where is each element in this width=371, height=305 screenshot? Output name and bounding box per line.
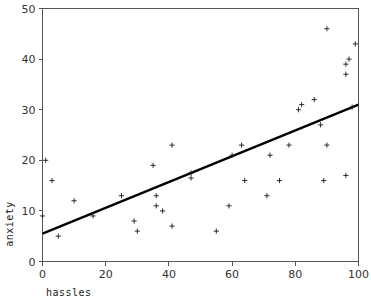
x-tick-label: 100 (348, 268, 369, 281)
regression-line-path (43, 105, 359, 234)
x-tick-label: 40 (162, 268, 176, 281)
data-point (154, 193, 159, 198)
data-point (119, 193, 124, 198)
data-point (299, 102, 304, 107)
plot-frame (42, 8, 359, 262)
data-point (154, 203, 159, 208)
y-tick-label: 50 (22, 3, 36, 16)
data-point (324, 143, 329, 148)
data-point (56, 234, 61, 239)
data-point (353, 41, 358, 46)
data-point (239, 143, 244, 148)
data-point (343, 72, 348, 77)
plot-canvas: 01020304050 020406080100 hassles anxiety (0, 0, 371, 305)
data-point (226, 203, 231, 208)
data-point (324, 26, 329, 31)
data-point (72, 198, 77, 203)
data-point (135, 229, 140, 234)
y-axis-ticks: 01020304050 (22, 3, 43, 269)
y-axis-title: anxiety (4, 201, 15, 247)
y-tick-label: 30 (22, 104, 36, 117)
x-tick-label: 60 (225, 268, 239, 281)
data-point (321, 178, 326, 183)
x-axis-title: hassles (46, 287, 92, 298)
data-point (343, 62, 348, 67)
data-point (188, 175, 193, 180)
data-point (296, 107, 301, 112)
x-tick-label: 80 (288, 268, 302, 281)
data-point (49, 178, 54, 183)
data-point (343, 173, 348, 178)
data-point (264, 193, 269, 198)
y-tick-label: 10 (22, 205, 36, 218)
data-point (286, 143, 291, 148)
data-point (169, 223, 174, 228)
data-point (312, 97, 317, 102)
data-point (169, 143, 174, 148)
x-tick-label: 20 (99, 268, 113, 281)
y-tick-label: 40 (22, 53, 36, 66)
data-point (318, 122, 323, 127)
data-point (43, 158, 48, 163)
data-point-markers (40, 26, 358, 239)
y-tick-label: 20 (22, 154, 36, 167)
x-axis-ticks: 020406080100 (39, 262, 369, 281)
x-tick-label: 0 (39, 268, 46, 281)
data-point (267, 153, 272, 158)
data-point (277, 178, 282, 183)
scatterplot-figure: 01020304050 020406080100 hassles anxiety (0, 0, 371, 305)
data-point (40, 213, 45, 218)
regression-line (43, 105, 359, 234)
data-point (160, 208, 165, 213)
data-point (151, 163, 156, 168)
data-point (214, 229, 219, 234)
data-point (346, 57, 351, 62)
data-point (242, 178, 247, 183)
data-point (132, 218, 137, 223)
y-tick-label: 0 (29, 256, 36, 269)
